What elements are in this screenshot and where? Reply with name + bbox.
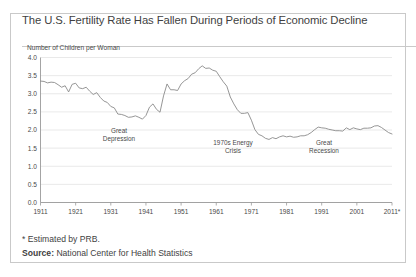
source-text: National Center for Health Statistics [54, 248, 193, 258]
annotation-great-depression: Great Depression [84, 127, 154, 142]
y-tick-label: 1.0 [28, 163, 37, 170]
x-tick-label: 1951 [174, 208, 189, 215]
y-tick-label: 1.5 [28, 145, 37, 152]
y-tick-label: 0.5 [28, 181, 37, 188]
source-line: Source: National Center for Health Stati… [22, 248, 193, 258]
y-tick-label: 2.5 [28, 108, 37, 115]
annotation-great-depression-line1: Great [84, 127, 154, 135]
x-tick-label: 1971 [244, 208, 259, 215]
x-tick-label: 1931 [103, 208, 118, 215]
annotation-great-recession: Great Recession [291, 139, 357, 154]
x-tick-label: 1921 [68, 208, 83, 215]
y-tick-label: 0.0 [28, 199, 37, 206]
footnote-text: * Estimated by PRB. [22, 234, 100, 244]
x-tick-label: 1961 [209, 208, 224, 215]
x-tick-label: 2011* [384, 208, 401, 215]
annotation-energy-crisis-line2: Crisis [196, 147, 270, 155]
y-tick-label: 3.0 [28, 90, 37, 97]
annotation-energy-crisis: 1970s Energy Crisis [196, 139, 270, 154]
y-tick-label: 4.0 [28, 54, 37, 61]
y-tick-labels-group: 0.00.51.01.52.02.53.03.54.0 [28, 54, 37, 206]
y-tick-label: 2.0 [28, 126, 37, 133]
annotation-great-recession-line1: Great [291, 139, 357, 147]
x-tick-label: 1981 [279, 208, 294, 215]
x-tick-labels-group: 1911192119311941195119611971198119912001… [33, 208, 400, 215]
x-tick-label: 1991 [314, 208, 329, 215]
annotation-great-recession-line2: Recession [291, 147, 357, 155]
source-label: Source: [22, 248, 54, 258]
annotation-great-depression-line2: Depression [84, 135, 154, 143]
x-tick-label: 1911 [33, 208, 48, 215]
annotation-energy-crisis-line1: 1970s Energy [196, 139, 270, 147]
x-tick-label: 1941 [139, 208, 154, 215]
y-tick-label: 3.5 [28, 72, 37, 79]
x-tick-label: 2001 [350, 208, 365, 215]
